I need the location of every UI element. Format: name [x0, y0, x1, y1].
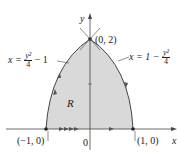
left-eq-den: 4 — [24, 61, 32, 69]
left-eq-fraction: y² 4 — [24, 52, 32, 69]
region-label: R — [67, 98, 74, 108]
left-eq-tail: − 1 — [35, 54, 48, 65]
right-eq-lhs: x = 1 − — [129, 51, 159, 62]
left-eq-lhs: x = — [8, 54, 22, 65]
left-curve-equation: x = y² 4 − 1 — [8, 52, 48, 69]
diagram-canvas — [0, 0, 179, 152]
right-eq-fraction: y² 4 — [162, 49, 170, 66]
y-axis-label: y — [80, 14, 84, 24]
leader-line-right — [118, 57, 129, 61]
right-curve-equation: x = 1 − y² 4 — [129, 49, 170, 66]
point-1-0 — [131, 127, 135, 131]
x-axis-label: x — [172, 136, 176, 146]
right-eq-den: 4 — [162, 58, 170, 66]
point-label-neg1-0: (−1, 0) — [17, 136, 44, 146]
origin-label: 0 — [83, 138, 88, 148]
x-axis-arrow-icon — [171, 127, 177, 131]
diagram: y x 0 (0, 2) (−1, 0) (1, 0) R x = y² 4 −… — [0, 0, 179, 152]
point-label-1-0: (1, 0) — [137, 136, 159, 146]
point-label-0-2: (0, 2) — [95, 35, 117, 45]
point-neg1-0 — [44, 127, 48, 131]
y-axis-arrow-icon — [88, 13, 92, 19]
